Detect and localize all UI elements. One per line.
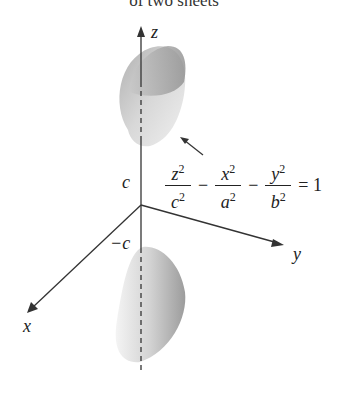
z-axis-arrow-icon (137, 26, 145, 37)
upper-sheet (119, 46, 185, 146)
term-z: z2 c2 (165, 158, 191, 213)
c-label: c (122, 172, 130, 193)
lower-sheet (116, 247, 186, 362)
minus-sign: − (198, 175, 208, 196)
term-x: x2 a2 (215, 158, 241, 213)
y-axis-label: y (293, 244, 301, 265)
pointer-line (184, 140, 203, 155)
term-y: y2 b2 (265, 158, 291, 213)
equation-rhs: = 1 (298, 175, 322, 196)
minus-sign: − (248, 175, 258, 196)
hyperboloid-equation: z2 c2 − x2 a2 − y2 b2 = 1 (162, 158, 326, 213)
y-axis-arrow-icon (271, 239, 284, 247)
neg-c-label: −c (110, 233, 130, 254)
z-axis-label: z (151, 22, 158, 43)
x-axis-label: x (23, 316, 31, 337)
